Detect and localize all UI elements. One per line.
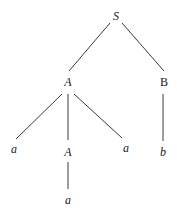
parse-tree: SABaAaba xyxy=(0,0,177,215)
node-b: b xyxy=(160,146,166,158)
edge-a1-a1 xyxy=(16,94,62,139)
node-a1: a xyxy=(11,143,17,155)
tree-edges xyxy=(0,0,177,215)
edge-s-b xyxy=(122,23,164,71)
node-a2: a xyxy=(123,142,129,154)
node-a3: a xyxy=(65,194,71,206)
node-b: B xyxy=(160,76,168,88)
node-s: S xyxy=(113,10,119,22)
edge-s-a1 xyxy=(69,23,110,71)
node-a2: A xyxy=(64,146,71,158)
edge-a1-a2 xyxy=(74,94,122,138)
node-a1: A xyxy=(64,76,71,88)
